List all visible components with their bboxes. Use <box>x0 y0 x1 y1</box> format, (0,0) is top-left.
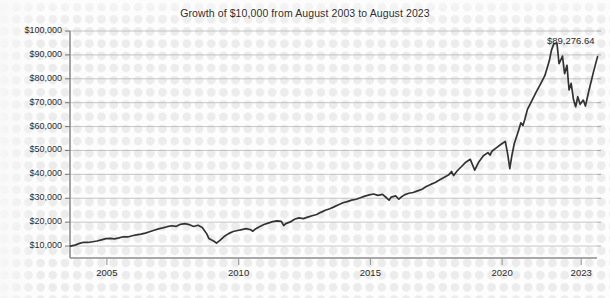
axis-ticks-group <box>65 31 601 265</box>
x-axis-tick-label: 2015 <box>350 267 390 278</box>
y-axis-tick-label: $50,000 <box>4 144 62 154</box>
chart-screenshot: Growth of $10,000 from August 2003 to Au… <box>0 0 610 298</box>
x-axis-tick-label: 2020 <box>482 267 522 278</box>
y-axis-tick-label: $90,000 <box>4 49 62 59</box>
y-axis-tick-label: $60,000 <box>4 121 62 131</box>
y-axis-tick-label: $100,000 <box>4 25 62 35</box>
x-axis-tick-label: 2023 <box>561 267 601 278</box>
y-axis-tick-label: $10,000 <box>4 240 62 250</box>
growth-line-series <box>71 43 598 246</box>
chart-title: Growth of $10,000 from August 2003 to Au… <box>0 7 610 19</box>
gridlines-group <box>70 31 597 246</box>
y-axis-tick-label: $30,000 <box>4 192 62 202</box>
y-axis-tick-label: $70,000 <box>4 97 62 107</box>
y-axis-tick-label: $80,000 <box>4 73 62 83</box>
x-axis-tick-label: 2010 <box>219 267 259 278</box>
end-value-annotation: $89,276.64 <box>547 35 595 46</box>
axis-lines-group <box>70 31 597 258</box>
x-axis-tick-label: 2005 <box>87 267 127 278</box>
y-axis-tick-label: $40,000 <box>4 168 62 178</box>
line-chart-plot <box>0 0 610 298</box>
y-axis-tick-label: $20,000 <box>4 216 62 226</box>
